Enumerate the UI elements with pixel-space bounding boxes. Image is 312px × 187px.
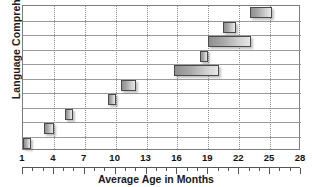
minor-tick-18: [197, 168, 198, 171]
minor-tick-26: [279, 168, 280, 171]
minor-tick-21: [228, 168, 229, 171]
x-axis-tick-labels: 14710131619222528: [22, 152, 300, 165]
bar-row-1: [23, 138, 31, 149]
minor-tick-3: [43, 168, 44, 171]
minor-tick-6: [73, 168, 74, 171]
bar-row-3: [65, 109, 73, 120]
minor-tick-17: [187, 168, 188, 171]
bar-row-9: [223, 22, 236, 33]
minor-tick-15: [166, 168, 167, 171]
bar-row-5: [121, 80, 136, 91]
row-separator: [23, 50, 301, 51]
chart-container: Language Comprehension 14710131619222528…: [0, 0, 312, 187]
plot-area: [22, 5, 300, 150]
gridline-22: [239, 6, 240, 149]
gridline-25: [270, 6, 271, 149]
row-separator: [23, 122, 301, 123]
minor-tick-8: [94, 168, 95, 171]
minor-tick-24: [259, 168, 260, 171]
gridline-7: [85, 6, 86, 149]
minor-tick-9: [104, 168, 105, 171]
row-separator: [23, 35, 301, 36]
bar-row-7: [200, 51, 208, 62]
bar-row-10: [250, 7, 273, 18]
minor-tick-5: [63, 168, 64, 171]
minor-tick-12: [135, 168, 136, 171]
x-tick-label-28: 28: [290, 152, 310, 163]
bar-row-2: [44, 123, 54, 134]
gridline-4: [54, 6, 55, 149]
x-tick-label-1: 1: [12, 152, 32, 163]
x-tick-label-25: 25: [259, 152, 279, 163]
x-tick-label-4: 4: [43, 152, 63, 163]
minor-tick-27: [290, 168, 291, 171]
gridline-19: [208, 6, 209, 149]
minor-tick-11: [125, 168, 126, 171]
row-separator: [23, 64, 301, 65]
gridline-16: [177, 6, 178, 149]
minor-tick-14: [156, 168, 157, 171]
x-axis-title: Average Age in Months: [0, 173, 312, 185]
x-tick-label-13: 13: [136, 152, 156, 163]
x-tick-label-10: 10: [105, 152, 125, 163]
gridline-10: [116, 6, 117, 149]
minor-tick-2: [32, 168, 33, 171]
row-separator: [23, 137, 301, 138]
bar-row-4: [108, 94, 115, 105]
bar-row-8: [208, 36, 250, 47]
x-tick-label-22: 22: [228, 152, 248, 163]
x-tick-label-19: 19: [197, 152, 217, 163]
row-separator: [23, 93, 301, 94]
row-separator: [23, 21, 301, 22]
row-separator: [23, 79, 301, 80]
minor-tick-23: [249, 168, 250, 171]
x-tick-label-16: 16: [166, 152, 186, 163]
gridline-13: [147, 6, 148, 149]
minor-tick-20: [218, 168, 219, 171]
x-tick-label-7: 7: [74, 152, 94, 163]
bar-row-6: [174, 65, 218, 76]
